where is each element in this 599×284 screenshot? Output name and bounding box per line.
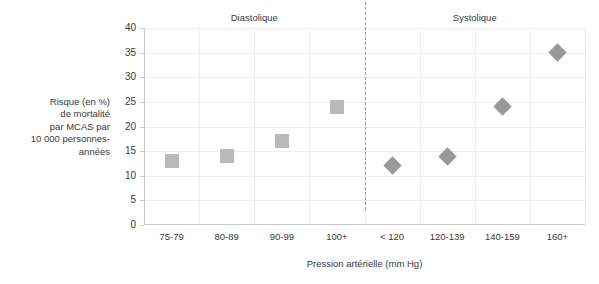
y-tick-label: 15 [106, 146, 136, 156]
y-tick-mark [140, 151, 144, 152]
x-tick-label: 120-139 [420, 231, 475, 242]
y-tick-label: 40 [106, 23, 136, 33]
y-axis-title: Risque (en %) de mortalité par MCAS par … [6, 96, 110, 158]
chart-container: Risque (en %) de mortalité par MCAS par … [0, 0, 599, 284]
y-tick-label: 35 [106, 48, 136, 58]
data-point-square [275, 134, 289, 148]
y-tick-label: 10 [106, 171, 136, 181]
data-point-square [165, 154, 179, 168]
y-tick-mark [140, 102, 144, 103]
x-tick-label: 100+ [309, 231, 364, 242]
x-tick-label: 90-99 [254, 231, 309, 242]
data-point-square [330, 100, 344, 114]
data-point-square [220, 149, 234, 163]
y-tick-mark [140, 200, 144, 201]
x-tick-label: 160+ [530, 231, 585, 242]
group-header-label: Diastolique [144, 12, 365, 23]
y-tick-mark [140, 176, 144, 177]
y-tick-label: 30 [106, 72, 136, 82]
x-tick-label: 75-79 [144, 231, 199, 242]
y-tick-label: 0 [106, 220, 136, 230]
x-tick-label: 80-89 [199, 231, 254, 242]
gridline-vertical [585, 28, 586, 225]
y-tick-mark [140, 28, 144, 29]
y-tick-mark [140, 77, 144, 78]
x-tick-label: < 120 [365, 231, 420, 242]
y-tick-label: 25 [106, 97, 136, 107]
y-tick-mark [140, 225, 144, 226]
x-axis-title: Pression artérielle (mm Hg) [144, 258, 585, 269]
y-tick-mark [140, 127, 144, 128]
diastolic-systolic-divider [365, 0, 366, 210]
y-tick-label: 20 [106, 122, 136, 132]
x-tick-label: 140-159 [475, 231, 530, 242]
group-header-label: Systolique [365, 12, 586, 23]
y-tick-mark [140, 53, 144, 54]
y-tick-label: 5 [106, 195, 136, 205]
